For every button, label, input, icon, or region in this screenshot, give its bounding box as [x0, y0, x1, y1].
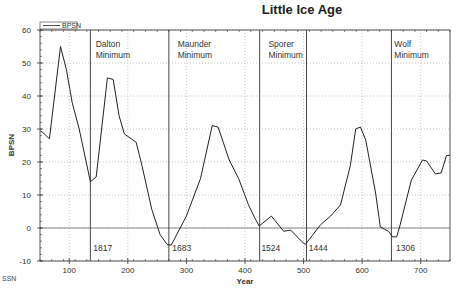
y-tick-label: 10 — [22, 191, 31, 200]
annotation-label: Maunder — [178, 39, 212, 49]
chart: Little Ice Age DaltonMinimumMaunderMinim… — [0, 0, 456, 294]
x-axis-label: Year — [237, 277, 254, 286]
y-tick-label: 20 — [22, 158, 31, 167]
y-tick-label: -10 — [19, 257, 31, 266]
y-tick-label: 30 — [22, 125, 31, 134]
annotation-label: 1444 — [309, 243, 328, 253]
annotations: DaltonMinimumMaunderMinimumSporerMinimum… — [93, 39, 429, 254]
x-tick-label: 100 — [63, 266, 77, 275]
annotation-label: 1683 — [172, 243, 191, 253]
y-tick-label: 40 — [22, 92, 31, 101]
chart-title: Little Ice Age — [262, 2, 342, 17]
series-bpsn-line — [40, 47, 450, 246]
reference-lines — [40, 30, 450, 261]
y-tick-label: 0 — [27, 224, 32, 233]
x-tick-label: 700 — [414, 266, 428, 275]
annotation-label: Wolf — [394, 39, 411, 49]
annotation-label: Minimum — [394, 50, 428, 60]
y-axis-label: BPSN — [7, 134, 16, 156]
annotation-label: Sporer — [268, 39, 294, 49]
annotation-label: Dalton — [96, 39, 121, 49]
legend-label: BPSN — [62, 22, 81, 29]
legend: BPSN — [40, 22, 81, 29]
x-tick-label: 300 — [180, 266, 194, 275]
annotation-label: Minimum — [178, 50, 212, 60]
annotation-label: 1524 — [261, 243, 280, 253]
grid — [40, 30, 450, 261]
annotation-label: 1817 — [93, 243, 112, 253]
x-tick-label: 200 — [121, 266, 135, 275]
footer-ssn-label: SSN — [2, 275, 16, 282]
y-tick-label: 60 — [22, 26, 31, 35]
y-tick-label: 50 — [22, 59, 31, 68]
plot-frame — [40, 30, 450, 261]
x-tick-label: 400 — [238, 266, 252, 275]
annotation-label: Minimum — [96, 50, 130, 60]
x-tick-label: 600 — [355, 266, 369, 275]
x-tick-label: 500 — [297, 266, 311, 275]
annotation-label: 1306 — [396, 243, 415, 253]
annotation-label: Minimum — [268, 50, 302, 60]
